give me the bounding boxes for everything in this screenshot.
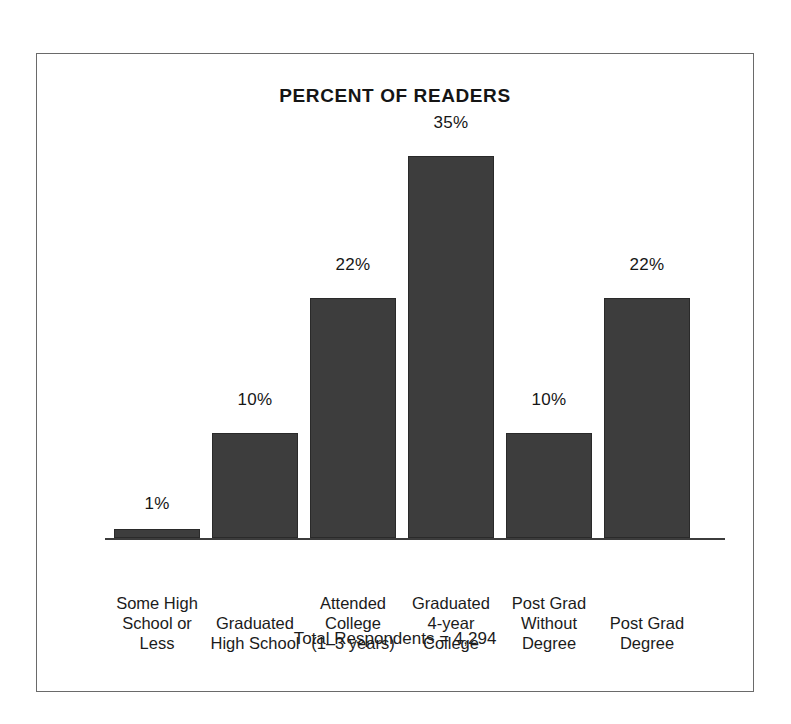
bar-value-label: 35% [402, 113, 500, 133]
total-respondents-note: Total Respondents = 4,294 [37, 629, 753, 649]
bar[interactable] [506, 433, 592, 538]
plot-area: 1% Some High School or Less 10% Graduate… [53, 54, 739, 693]
bar-value-label: 22% [304, 255, 402, 275]
bar[interactable] [408, 156, 494, 538]
bar[interactable] [310, 298, 396, 538]
bar-value-label: 10% [500, 390, 598, 410]
bar-value-label: 10% [206, 390, 304, 410]
bar[interactable] [604, 298, 690, 538]
chart-frame: PERCENT OF READERS 1% Some High School o… [36, 53, 754, 692]
bar[interactable] [114, 529, 200, 538]
category-line: Some High [99, 593, 215, 613]
bar-value-label: 1% [108, 494, 206, 514]
bar[interactable] [212, 433, 298, 538]
category-line: Post Grad [491, 593, 607, 613]
x-axis-line [105, 538, 725, 540]
bar-value-label: 22% [598, 255, 696, 275]
